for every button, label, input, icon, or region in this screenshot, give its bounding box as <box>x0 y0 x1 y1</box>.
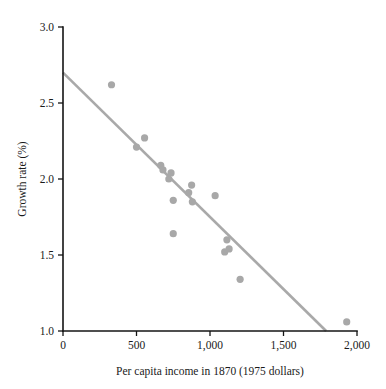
y-axis-ticks: 1.01.52.02.53.0 <box>40 21 63 337</box>
x-axis-title: Per capita income in 1870 (1975 dollars) <box>116 365 304 378</box>
x-tick-label: 1,000 <box>197 339 223 352</box>
data-point <box>189 198 196 205</box>
scatter-chart-figure: 05001,0001,5002,000 1.01.52.02.53.0 Per … <box>0 0 386 389</box>
x-tick-label: 2,000 <box>344 339 370 352</box>
data-point <box>185 189 192 196</box>
chart-canvas: 05001,0001,5002,000 1.01.52.02.53.0 Per … <box>0 0 386 389</box>
x-tick-label: 0 <box>60 339 66 351</box>
axis-spines <box>63 27 357 331</box>
data-point <box>170 230 177 237</box>
data-point <box>212 192 219 199</box>
data-point <box>237 276 244 283</box>
data-point <box>108 81 115 88</box>
data-point <box>133 143 140 150</box>
data-point <box>167 169 174 176</box>
y-tick-label: 3.0 <box>40 21 55 33</box>
data-point <box>223 236 230 243</box>
y-tick-label: 1.5 <box>40 249 55 261</box>
y-tick-label: 2.5 <box>40 97 55 109</box>
y-tick-label: 1.0 <box>40 325 55 337</box>
y-tick-label: 2.0 <box>40 173 55 185</box>
y-axis-title: Growth rate (%) <box>16 141 29 217</box>
data-point <box>141 134 148 141</box>
data-point <box>188 181 195 188</box>
data-point <box>226 245 233 252</box>
data-point <box>170 197 177 204</box>
data-points-group <box>108 81 350 325</box>
x-axis-ticks: 05001,0001,5002,000 <box>60 331 370 352</box>
x-tick-label: 1,500 <box>271 339 297 352</box>
x-tick-label: 500 <box>128 339 146 351</box>
data-point <box>343 318 350 325</box>
data-point <box>159 166 166 173</box>
